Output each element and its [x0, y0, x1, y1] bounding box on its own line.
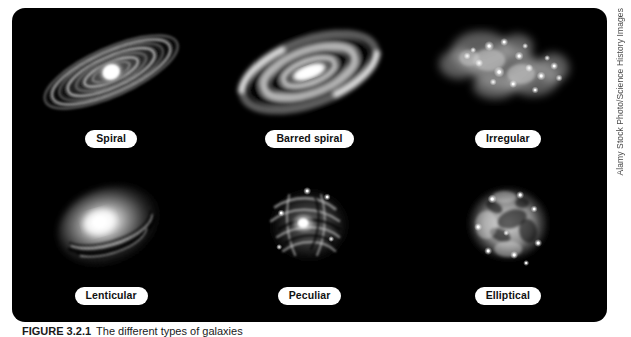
alamy-watermark: Alamy Stock Photo/Science History Images: [611, 8, 629, 308]
galaxy-label-barred-spiral: Barred spiral: [265, 130, 353, 148]
galaxy-label-lenticular: Lenticular: [75, 287, 148, 305]
galaxy-cell-spiral: Spiral: [12, 8, 210, 165]
galaxy-cell-barred-spiral: Barred spiral: [210, 8, 408, 165]
watermark-text: Alamy Stock Photo/Science History Images: [615, 8, 625, 175]
galaxy-cell-elliptical: Elliptical: [409, 165, 607, 322]
irregular-galaxy-illustration: [409, 16, 607, 128]
galaxy-label-spiral: Spiral: [85, 130, 137, 148]
spiral-galaxy-illustration: [12, 16, 210, 128]
galaxy-cell-irregular: Irregular: [409, 8, 607, 165]
galaxy-figure-panel: Spiral: [12, 8, 607, 322]
figure-caption: FIGURE 3.2.1The different types of galax…: [22, 325, 582, 337]
galaxy-label-irregular: Irregular: [475, 130, 541, 148]
elliptical-galaxy-illustration: [409, 173, 607, 285]
figure-caption-label: FIGURE 3.2.1: [22, 325, 91, 337]
galaxy-cell-lenticular: Lenticular: [12, 165, 210, 322]
figure-caption-text: The different types of galaxies: [96, 325, 243, 337]
lenticular-galaxy-illustration: [12, 173, 210, 285]
galaxy-cell-peculiar: Peculiar: [210, 165, 408, 322]
barred-spiral-galaxy-illustration: [210, 16, 408, 128]
galaxy-label-peculiar: Peculiar: [278, 287, 342, 305]
peculiar-galaxy-illustration: [210, 173, 408, 285]
galaxy-grid: Spiral: [12, 8, 607, 322]
galaxy-label-elliptical: Elliptical: [475, 287, 541, 305]
